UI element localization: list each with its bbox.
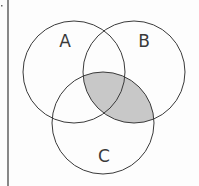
dot-mark xyxy=(1,5,3,7)
label-a: A xyxy=(59,31,71,51)
label-b: B xyxy=(138,31,150,51)
venn-diagram: A B C xyxy=(0,0,199,186)
label-c: C xyxy=(98,146,110,166)
venn-svg: A B C xyxy=(0,0,199,186)
